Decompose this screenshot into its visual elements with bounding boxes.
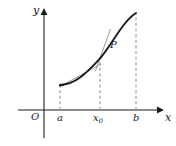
tick-label-b: b xyxy=(133,113,139,123)
inflection-point-label: P xyxy=(110,40,117,50)
y-axis-arrow-icon xyxy=(41,8,48,15)
origin-label: O xyxy=(31,112,39,122)
math-figure: y x O a x0 b P xyxy=(0,0,176,146)
x-axis-label: x xyxy=(165,112,171,123)
tangent-line-at-p xyxy=(96,29,111,71)
graph-canvas xyxy=(0,0,176,146)
tick-label-a: a xyxy=(57,113,63,123)
tick-label-x0: x0 xyxy=(93,113,103,124)
tick-label-x0-subscript: 0 xyxy=(99,117,103,125)
y-axis xyxy=(41,8,48,138)
y-axis-label: y xyxy=(33,5,39,16)
x-axis xyxy=(18,107,164,114)
function-curve xyxy=(60,13,136,85)
x-axis-arrow-icon xyxy=(157,107,164,114)
